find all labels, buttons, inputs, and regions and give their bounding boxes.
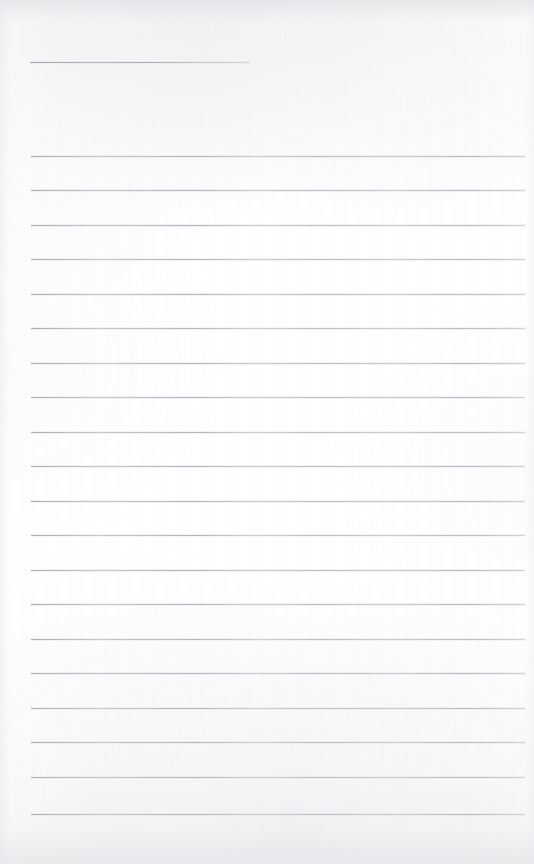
ruled-line [31, 604, 525, 605]
ruled-line [31, 363, 525, 364]
ruled-line [31, 190, 525, 191]
ruled-line [31, 814, 525, 815]
ruled-line [31, 501, 525, 502]
ruled-line [31, 535, 525, 536]
ruled-line [31, 708, 525, 709]
ruled-line [31, 397, 525, 398]
scanned-page [0, 0, 534, 864]
ruled-line [31, 156, 525, 157]
ruled-line [31, 328, 525, 329]
ruled-line [31, 466, 525, 467]
ruled-line [31, 294, 525, 295]
ruled-line [31, 225, 525, 226]
ruled-lines-layer [0, 0, 534, 864]
ruled-line [31, 673, 525, 674]
ruled-line [31, 639, 525, 640]
ruled-line [31, 570, 525, 571]
ruled-line [31, 742, 525, 743]
header-rule [30, 62, 250, 63]
ruled-line [31, 259, 525, 260]
ruled-line [31, 432, 525, 433]
ruled-line [31, 777, 525, 778]
